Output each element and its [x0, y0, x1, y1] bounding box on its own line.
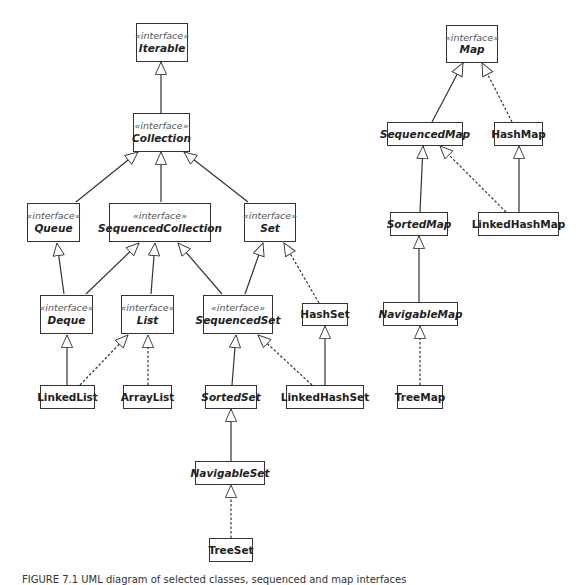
node-linkedhashset: LinkedHashSet [286, 385, 364, 409]
edge-deque-queue [57, 243, 64, 294]
stereotype-label: «interface» [39, 303, 93, 314]
edge-sequencedset-sequencedcollection [178, 243, 222, 294]
edge-queue-collection [76, 152, 138, 202]
node-arraylist: ArrayList [123, 385, 172, 409]
node-sequencedset: «interface» SequencedSet [203, 295, 273, 334]
class-name: SequencedSet [196, 314, 281, 326]
node-navigablemap: NavigableMap [383, 302, 458, 326]
node-navigableset: NavigableSet [195, 461, 265, 485]
class-name: HashSet [300, 308, 349, 320]
edge-hashmap-map [482, 63, 512, 122]
node-hashmap: HashMap [494, 122, 543, 146]
node-sortedmap: SortedMap [390, 212, 448, 236]
stereotype-label: «interface» [120, 303, 174, 314]
class-name: SequencedMap [380, 128, 470, 140]
stereotype-label: «interface» [211, 303, 265, 314]
node-queue: «interface» Queue [27, 203, 80, 242]
stereotype-label: «interface» [445, 33, 499, 44]
edge-linkedlist-list [80, 335, 128, 385]
class-name: List [137, 314, 159, 326]
node-treemap: TreeMap [397, 385, 443, 409]
edge-sortedmap-sequencedmap [420, 146, 423, 212]
edge-linkedhashset-sequencedset [258, 335, 312, 385]
class-name: SequencedCollection [98, 222, 222, 234]
edge-deque-sequencedcollection [86, 243, 139, 294]
node-set: «interface» Set [244, 203, 296, 242]
node-iterable: «interface» Iterable [136, 23, 188, 62]
edge-sequencedmap-map [432, 63, 463, 122]
edge-list-sequencedcollection [151, 243, 155, 294]
class-name: Map [459, 43, 484, 55]
class-name: Queue [34, 222, 72, 234]
class-name: Deque [48, 314, 86, 326]
class-name: TreeMap [395, 391, 445, 403]
edge-hashset-set [284, 243, 319, 303]
class-name: HashMap [491, 128, 546, 140]
node-treeset: TreeSet [209, 538, 253, 562]
node-linkedhashmap: LinkedHashMap [478, 212, 559, 236]
node-map: «interface» Map [446, 25, 498, 63]
node-hashset: HashSet [302, 303, 348, 326]
class-name: Set [260, 222, 280, 234]
class-name: LinkedHashMap [472, 218, 566, 230]
class-name: Collection [132, 132, 191, 144]
node-sortedset: SortedSet [205, 385, 257, 409]
class-name: NavigableMap [378, 308, 462, 320]
figure-caption: FIGURE 7.1 UML diagram of selected class… [22, 574, 406, 585]
edge-linkedhashmap-sequencedmap [440, 146, 506, 212]
node-collection: «interface» Collection [133, 113, 190, 152]
node-sequencedmap: SequencedMap [387, 122, 463, 146]
stereotype-label: «interface» [135, 31, 189, 42]
node-deque: «interface» Deque [40, 295, 93, 334]
edge-sortedset-sequencedset [232, 335, 236, 385]
class-name: Iterable [139, 42, 186, 54]
class-name: ArrayList [121, 391, 175, 403]
class-name: TreeSet [208, 544, 253, 556]
stereotype-label: «interface» [243, 211, 297, 222]
class-name: SortedMap [387, 218, 452, 230]
stereotype-label: «interface» [133, 211, 187, 222]
class-name: SortedSet [201, 391, 260, 403]
edge-sequencedset-set [245, 243, 263, 294]
node-sequencedcollection: «interface» SequencedCollection [109, 203, 211, 242]
edge-set-collection [184, 152, 248, 202]
class-name: LinkedHashSet [281, 391, 369, 403]
stereotype-label: «interface» [26, 211, 80, 222]
class-name: NavigableSet [191, 467, 270, 479]
stereotype-label: «interface» [134, 121, 188, 132]
node-linkedlist: LinkedList [40, 385, 95, 409]
node-list: «interface» List [121, 295, 174, 334]
class-name: LinkedList [37, 391, 98, 403]
